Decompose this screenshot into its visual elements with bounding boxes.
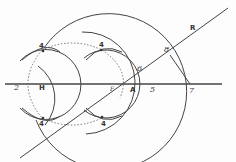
label-4-bottom-right: 4 [101, 120, 106, 128]
label-r: R [190, 24, 196, 32]
point-4-top-right [100, 49, 103, 52]
label-h: H [39, 84, 45, 92]
right-construction-arc [82, 32, 135, 134]
label-4-bottom-left: 4 [39, 120, 44, 128]
point-4-bottom-left [42, 117, 45, 120]
dotted-ellipse [42, 43, 102, 50]
label-f: F [109, 85, 115, 92]
label-6: 6 [137, 64, 142, 73]
label-5: 5 [150, 85, 155, 94]
point-4-bottom-right [101, 116, 104, 119]
label-2: 2 [13, 83, 19, 92]
diagram-canvas: 2 H 4 4 4 4 F A 5 6 7 8 R [0, 0, 236, 162]
point-4-top-left [42, 50, 45, 53]
label-4-top-right: 4 [99, 41, 104, 49]
label-a: A [130, 86, 136, 94]
label-4-top-left: 4 [39, 42, 44, 50]
label-7: 7 [189, 86, 195, 95]
diagonal-line [20, 8, 228, 158]
label-8: 8 [164, 45, 169, 54]
geometry-diagram: 2 H 4 4 4 4 F A 5 6 7 8 R [0, 0, 236, 162]
